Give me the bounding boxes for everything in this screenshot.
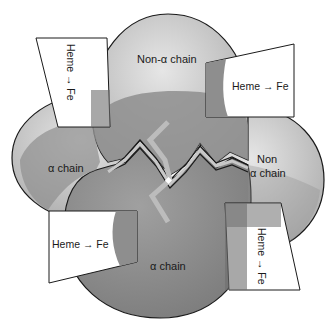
label-alpha-left: α chain [48,162,84,174]
label-nonalpha-top: Non-α chain [137,53,197,65]
hemoglobin-diagram: Heme → Fe Heme → Fe Heme → Fe Heme → Fe … [0,0,331,329]
heme-label-bottom-left: Heme → Fe [52,238,109,250]
heme-label-top-right: Heme → Fe [232,80,289,92]
label-nonalpha-right-line2: α chain [250,167,286,179]
heme-label-bottom-right: Heme → Fe [256,228,268,285]
label-nonalpha-right-line1: Non [257,153,277,165]
heme-label-top-left: Heme → Fe [65,44,77,101]
label-alpha-bottom: α chain [150,260,186,272]
